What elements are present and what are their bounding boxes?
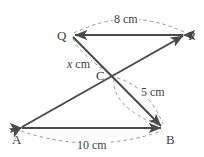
vertex-label-B: B — [166, 133, 175, 146]
vertex-label-P: P — [188, 29, 195, 42]
measure-label-QC: x cm — [66, 58, 91, 70]
geometry-figure: Q P C A B 8 cm x cm 5 cm 10 cm — [0, 0, 204, 157]
vertex-label-C: C — [96, 69, 105, 82]
measure-label-QC-unit: cm — [72, 57, 90, 71]
measure-label-AB: 10 cm — [76, 139, 108, 151]
vertex-label-A: A — [12, 133, 21, 146]
vertex-label-Q: Q — [57, 29, 66, 42]
measure-label-QP: 8 cm — [113, 13, 139, 25]
measure-label-CB: 5 cm — [140, 86, 166, 98]
segment-QB — [73, 37, 161, 126]
